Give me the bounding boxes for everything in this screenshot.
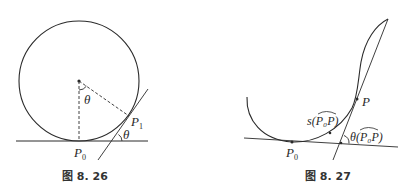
theta-tangent-label: θ xyxy=(123,127,130,142)
tangent-angle-label: θ(P₀P) xyxy=(350,128,383,145)
angle-arc-intersection xyxy=(344,136,349,144)
p1-label: P1 xyxy=(130,114,143,131)
angle-arc-center xyxy=(79,86,86,90)
p0-label: P0 xyxy=(73,145,86,162)
theta-center-label: θ xyxy=(84,92,91,107)
point-p0 xyxy=(291,141,294,144)
figure-caption-8-27: 图 8. 27 xyxy=(305,170,351,183)
angle-arc-tangent xyxy=(119,135,123,142)
figure-caption-8-26: 图 8. 26 xyxy=(62,170,108,183)
svg-text:s(P₀P): s(P₀P) xyxy=(307,114,339,128)
point-p xyxy=(356,98,359,101)
figure-8-27: P P0 s(P₀P) θ(P₀P) 图 8. 27 xyxy=(244,19,398,183)
point-arc-mid xyxy=(329,132,332,135)
p0-label-2: P0 xyxy=(285,145,298,162)
point-intersection xyxy=(340,142,343,145)
figure-8-26: θ θ P1 P0 图 8. 26 xyxy=(16,21,148,183)
svg-text:θ(P₀P): θ(P₀P) xyxy=(350,130,383,144)
p-label: P xyxy=(361,94,370,109)
arc-length-label: s(P₀P) xyxy=(307,112,339,129)
diagram-canvas: θ θ P1 P0 图 8. 26 P P0 s(P₀P) xyxy=(0,0,412,192)
